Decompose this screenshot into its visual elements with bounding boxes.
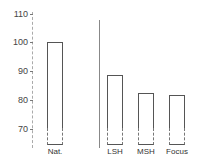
bar-msh-break [138, 128, 154, 145]
y-tick-mark [30, 100, 33, 101]
y-tick-label: 80 [6, 95, 28, 105]
y-tick-mark [30, 71, 33, 72]
y-tick-mark [30, 42, 33, 43]
x-label-lsh: LSH [98, 147, 132, 156]
group-divider [99, 20, 100, 148]
x-label-msh: MSH [129, 147, 163, 156]
bar-focus [169, 95, 185, 128]
y-tick-mark [30, 14, 33, 15]
bar-focus-break [169, 128, 185, 145]
y-axis [32, 12, 33, 148]
y-tick-mark [30, 129, 33, 130]
x-label-focus: Focus [160, 147, 194, 156]
y-tick-label: 70 [6, 124, 28, 134]
bar-nat-break [47, 128, 63, 145]
bar-nat [47, 42, 63, 128]
x-label-nat: Nat. [38, 147, 72, 156]
y-tick-label: 100 [6, 37, 28, 47]
bar-chart: 110 100 90 80 70 Nat. LSH MSH Focus [0, 0, 203, 162]
y-tick-label: 110 [6, 9, 28, 19]
y-tick-label: 90 [6, 66, 28, 76]
bar-lsh-break [107, 128, 123, 145]
bar-msh [138, 93, 154, 128]
bar-lsh [107, 75, 123, 128]
